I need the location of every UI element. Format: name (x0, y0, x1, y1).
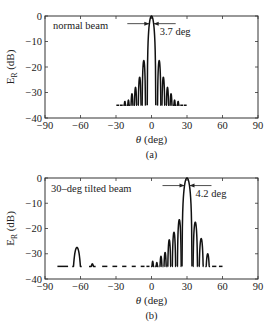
lobe (167, 240, 171, 267)
x-tick-label: 0 (149, 120, 154, 131)
lobe (177, 220, 181, 267)
y-tick-label: −20 (26, 223, 42, 234)
lobe (157, 61, 161, 106)
lobe (172, 232, 176, 266)
y-tick-label: 0 (37, 173, 42, 184)
beam-annotation: normal beam (53, 20, 108, 31)
y-tick-label: −40 (26, 274, 42, 285)
y-tick-label: −30 (26, 248, 42, 259)
lobe (134, 87, 137, 105)
y-tick-label: −40 (26, 113, 42, 124)
lobe (155, 263, 158, 267)
y-axis-label: ER (dB) (4, 49, 19, 84)
x-tick-label: −60 (72, 120, 88, 131)
lobe (169, 94, 172, 105)
lobe (166, 87, 169, 105)
y-axis-label: ER (dB) (4, 211, 19, 246)
panel-label: (a) (146, 149, 158, 161)
y-tick-label: −10 (26, 36, 42, 47)
lobe (138, 77, 141, 105)
lobe (72, 247, 81, 266)
lobe (173, 100, 176, 105)
lobe (159, 256, 162, 266)
lobe (193, 222, 198, 266)
x-tick-label: 30 (182, 120, 193, 131)
lobe (89, 264, 96, 267)
lobe (163, 252, 166, 266)
x-tick-label: 90 (253, 281, 264, 292)
lobe (205, 254, 210, 267)
y-tick-label: −10 (26, 198, 42, 209)
x-tick-label: 60 (217, 120, 228, 131)
lobe (127, 100, 130, 105)
x-tick-label: −30 (108, 281, 124, 292)
lobe (199, 239, 204, 267)
x-axis-label: θ (deg) (136, 294, 168, 307)
beamwidth-label: 4.2 deg (195, 188, 227, 199)
x-tick-label: 30 (182, 281, 193, 292)
plot-frame (45, 16, 258, 118)
x-tick-label: 90 (253, 120, 264, 131)
x-tick-label: 60 (217, 281, 228, 292)
x-tick-label: −60 (72, 281, 88, 292)
chart-panel-b: −90−60−3003060900−10−20−30−40ER (dB)θ (d… (4, 173, 263, 323)
lobe (162, 77, 165, 105)
lobe (123, 101, 126, 105)
y-tick-label: −30 (26, 87, 42, 98)
lobe (130, 94, 133, 105)
lobe (147, 16, 156, 105)
y-tick-label: 0 (37, 11, 42, 22)
lobe (151, 261, 154, 266)
x-axis-label: θ (deg) (136, 133, 168, 146)
beamwidth-label: 3.7 deg (160, 26, 192, 37)
x-tick-label: −30 (108, 120, 124, 131)
lobe (142, 61, 146, 106)
lobe (177, 101, 180, 105)
figure: −90−60−3003060900−10−20−30−40ER (dB)θ (d… (0, 0, 273, 332)
lobe (182, 178, 192, 266)
beam-annotation: 30–deg tilted beam (51, 183, 131, 194)
y-tick-label: −20 (26, 62, 42, 73)
x-tick-label: 0 (149, 281, 154, 292)
panel-label: (b) (145, 310, 158, 322)
chart-panel-a: −90−60−3003060900−10−20−30−40ER (dB)θ (d… (4, 11, 263, 162)
